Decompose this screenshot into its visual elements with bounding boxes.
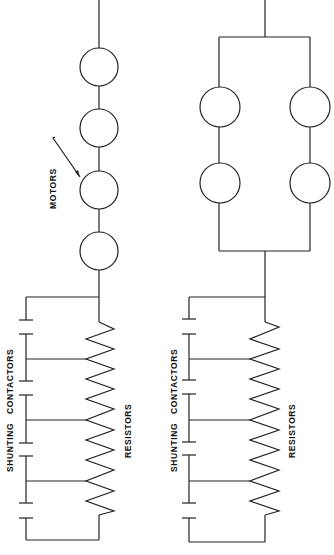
resistor-icon [86, 322, 114, 515]
motor-icon [200, 163, 240, 203]
series-parallel-circuit: SHUNTING CONTACTORS RESISTORS [169, 0, 330, 542]
contactors-label: SHUNTING CONTACTORS [5, 349, 15, 472]
motor-icon [290, 87, 330, 127]
resistors-label: RESISTORS [287, 404, 297, 458]
series-circuit: MOTORS [5, 0, 133, 540]
schematic-canvas: MOTORS [0, 0, 334, 555]
shunting-contactors [19, 297, 33, 540]
resistor-bank [189, 297, 279, 542]
contactors-label: SHUNTING CONTACTORS [169, 349, 179, 472]
motor-array [200, 37, 330, 251]
resistor-bank [26, 297, 114, 540]
motor-icon [80, 109, 118, 147]
motor-icon [200, 87, 240, 127]
motor-chain [80, 48, 118, 297]
resistor-icon [250, 322, 279, 515]
motor-icon [290, 163, 330, 203]
motor-icon [80, 48, 118, 86]
motors-label: MOTORS [48, 168, 58, 209]
resistors-label: RESISTORS [123, 404, 133, 458]
motor-icon [80, 232, 118, 270]
motor-icon [80, 171, 118, 209]
